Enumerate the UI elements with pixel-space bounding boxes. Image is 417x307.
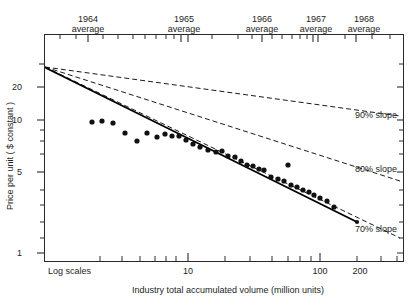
y-axis-title: Price per unit ( $ constant ): [5, 102, 15, 210]
slope-line-90: [45, 67, 400, 116]
slope-label-90: 90% slope: [355, 110, 397, 120]
slope-label-70: 70% slope: [355, 224, 397, 234]
data-point: [110, 120, 115, 125]
data-point: [99, 118, 104, 123]
top-axis-year-1965: 1965 average: [168, 14, 201, 34]
data-point: [122, 130, 127, 135]
data-point: [244, 162, 249, 167]
data-point: [281, 178, 286, 183]
data-point: [300, 187, 305, 192]
top-axis-year-label: 1966: [252, 14, 272, 24]
data-point: [268, 174, 273, 179]
data-point: [169, 133, 174, 138]
top-axis-year-1964: 1964 average: [72, 14, 105, 34]
data-point: [324, 198, 329, 203]
y-tick-label-5: 5: [17, 167, 22, 177]
experience-curve-figure: 1964 average 1965 average 1966 average 1…: [0, 0, 417, 307]
data-point: [183, 137, 188, 142]
data-point: [219, 148, 224, 153]
scatter-series: [89, 118, 336, 209]
data-point: [176, 133, 181, 138]
data-point: [238, 158, 243, 163]
top-axis-average-label: average: [246, 24, 279, 34]
top-axis-average-label: average: [348, 24, 381, 34]
top-axis-year-1967: 1967 average: [300, 14, 333, 34]
x-tick-label-10: 10: [183, 266, 193, 276]
slope-label-80: 80% slope: [355, 164, 397, 174]
data-point: [134, 138, 139, 143]
data-point: [311, 192, 316, 197]
y-tick-label-1: 1: [17, 248, 22, 258]
top-axis-year-label: 1965: [174, 14, 194, 24]
data-point: [275, 176, 280, 181]
log-scales-note: Log scales: [48, 266, 92, 276]
top-axis-average-label: average: [300, 24, 333, 34]
data-point: [256, 166, 261, 171]
data-point: [331, 204, 336, 209]
x-tick-label-200: 200: [352, 266, 367, 276]
data-point: [288, 182, 293, 187]
x-axis-tick-labels: 10 100 200: [183, 266, 368, 276]
top-axis-average-label: average: [72, 24, 105, 34]
data-point: [306, 189, 311, 194]
top-axis-year-1968: 1968 average: [348, 14, 381, 34]
top-axis-year-label: 1967: [306, 14, 326, 24]
y-tick-label-20: 20: [12, 82, 22, 92]
data-point: [197, 144, 202, 149]
data-point: [250, 163, 255, 168]
data-point: [232, 154, 237, 159]
plot-frame: [44, 34, 404, 262]
x-axis-title: Industry total accumulated volume (milli…: [132, 285, 324, 295]
data-point: [225, 153, 230, 158]
data-point: [213, 149, 218, 154]
data-point-outlier: [285, 162, 290, 167]
data-point: [294, 184, 299, 189]
top-axis-year-label: 1968: [354, 14, 374, 24]
y-axis-ticks: [37, 64, 404, 253]
chart-canvas: 1964 average 1965 average 1966 average 1…: [0, 0, 417, 307]
x-axis-ticks: [100, 253, 397, 262]
data-point: [205, 147, 210, 152]
data-point: [144, 130, 149, 135]
top-axis-year-label: 1964: [78, 14, 98, 24]
top-axis-average-label: average: [168, 24, 201, 34]
data-point: [261, 167, 266, 172]
top-axis-year-1966: 1966 average: [246, 14, 279, 34]
data-point: [162, 131, 167, 136]
top-axis-ticks: [60, 35, 390, 43]
data-point: [89, 119, 94, 124]
top-axis: 1964 average 1965 average 1966 average 1…: [44, 14, 404, 42]
data-point: [317, 195, 322, 200]
slope-line-80: [45, 67, 400, 181]
data-point: [154, 134, 159, 139]
slope-annotations: 90% slope 80% slope 70% slope: [355, 110, 397, 234]
x-tick-label-100: 100: [312, 266, 327, 276]
data-point: [190, 141, 195, 146]
